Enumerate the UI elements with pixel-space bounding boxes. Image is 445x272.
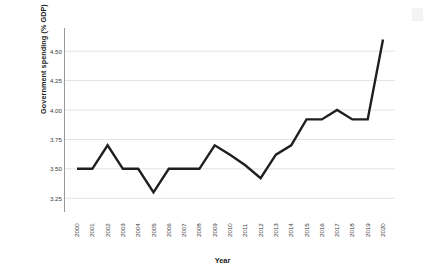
y-tick-label-3.25: 3.25 xyxy=(36,195,62,202)
y-tick-label-3.50: 3.50 xyxy=(36,165,62,172)
corner-artifact xyxy=(412,8,423,21)
plot-area xyxy=(65,30,395,210)
x-tick-label-2002: 2002 xyxy=(104,199,112,233)
x-tick-label-2017: 2017 xyxy=(333,199,341,233)
y-tick-label-4.25: 4.25 xyxy=(36,77,62,84)
x-tick-label-2018: 2018 xyxy=(348,199,356,233)
x-axis-title: Year xyxy=(0,256,445,265)
x-tick-label-2019: 2019 xyxy=(364,199,372,233)
x-tick-label-2000: 2000 xyxy=(73,199,81,233)
x-tick-label-2015: 2015 xyxy=(303,199,311,233)
gridlines xyxy=(65,51,395,198)
x-tick-label-2005: 2005 xyxy=(150,199,158,233)
x-tick-label-2007: 2007 xyxy=(180,199,188,233)
x-tick-label-2010: 2010 xyxy=(226,199,234,233)
x-tick-label-2013: 2013 xyxy=(272,199,280,233)
x-tick-label-2020: 2020 xyxy=(379,199,387,233)
x-axis-tick-labels: 2000200120022003200420052006200720082009… xyxy=(65,212,395,258)
x-tick-label-2003: 2003 xyxy=(119,199,127,233)
x-tick-label-2011: 2011 xyxy=(241,199,249,233)
x-tick-label-2014: 2014 xyxy=(287,199,295,233)
x-tick-label-2001: 2001 xyxy=(88,199,96,233)
x-tick-label-2004: 2004 xyxy=(134,199,142,233)
line-chart-svg xyxy=(65,30,395,210)
x-tick-label-2008: 2008 xyxy=(195,199,203,233)
y-tick-label-4.50: 4.50 xyxy=(36,48,62,55)
x-tick-label-2012: 2012 xyxy=(257,199,265,233)
y-tick-label-4.00: 4.00 xyxy=(36,107,62,114)
chart-figure: Government spending (% GDP) 3.253.503.75… xyxy=(0,0,445,272)
y-axis-tick-labels: 3.253.503.754.004.254.50 xyxy=(30,0,62,272)
series-line-government-spending xyxy=(77,39,383,192)
x-tick-label-2006: 2006 xyxy=(165,199,173,233)
y-tick-label-3.75: 3.75 xyxy=(36,136,62,143)
x-tick-label-2016: 2016 xyxy=(318,199,326,233)
x-tick-label-2009: 2009 xyxy=(211,199,219,233)
